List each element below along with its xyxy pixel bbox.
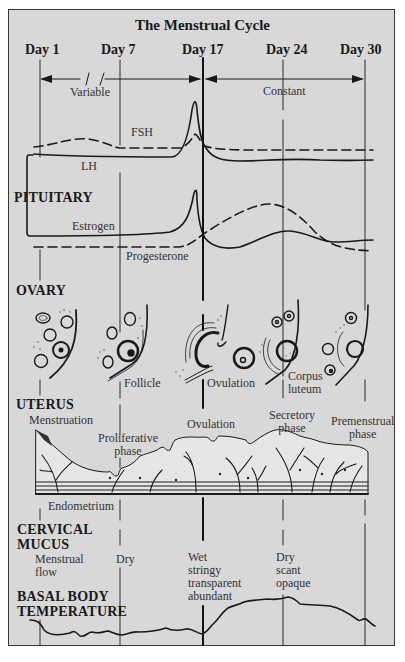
section-label-uterus: UTERUS	[16, 398, 74, 412]
mucus-menstrual-flow: Menstrual flow	[35, 553, 84, 579]
fsh-label: FSH	[131, 126, 153, 138]
day-label-7: Day 7	[101, 43, 136, 57]
constant-span-label: Constant	[263, 85, 306, 97]
section-label-mucus: MUCUS	[17, 538, 69, 552]
estrogen-label: Estrogen	[72, 220, 115, 232]
ovary-illustration-follicle	[97, 305, 147, 381]
section-label-cervical: CERVICAL	[17, 523, 93, 537]
variable-span-label: Variable	[70, 86, 110, 98]
menstruation-label: Menstruation	[29, 414, 93, 426]
lh-label: LH	[81, 160, 97, 172]
section-label-ovary: OVARY	[16, 284, 66, 298]
day-label-1: Day 1	[25, 43, 60, 57]
premenstrual-phase-label: Premenstrual phase	[331, 415, 394, 441]
section-label-pituitary: PITUITARY	[14, 191, 93, 205]
day-label-30: Day 30	[340, 43, 382, 57]
day-label-24: Day 24	[266, 43, 308, 57]
follicle-label: Follicle	[124, 377, 161, 389]
mucus-dry: Dry	[116, 553, 135, 566]
diagram-title: The Menstrual Cycle	[0, 18, 405, 33]
endometrium-label: Endometrium	[48, 500, 114, 512]
proliferative-phase-label: Proliferative phase	[98, 432, 158, 458]
ovary-illustration-premenstrual	[323, 305, 369, 385]
day-label-17: Day 17	[182, 43, 224, 57]
ovary-illustration-ovulation	[175, 305, 254, 383]
mucus-ovulation: Wet stringy transparent abundant	[188, 551, 241, 603]
ovary-illustration-day1	[33, 309, 76, 378]
secretory-phase-label: Secretory phase	[269, 409, 315, 435]
ovulation-uterus-label: Ovulation	[187, 418, 235, 430]
section-label-temperature: TEMPERATURE	[17, 605, 127, 619]
mucus-luteal: Dry scant opaque	[276, 551, 311, 590]
section-label-basal-body: BASAL BODY	[17, 590, 109, 604]
ovulation-ovary-label: Ovulation	[207, 377, 255, 389]
progesterone-label: Progesterone	[126, 250, 189, 262]
corpus-luteum-label: Corpus luteum	[288, 370, 323, 396]
endometrium-illustration	[36, 430, 368, 494]
